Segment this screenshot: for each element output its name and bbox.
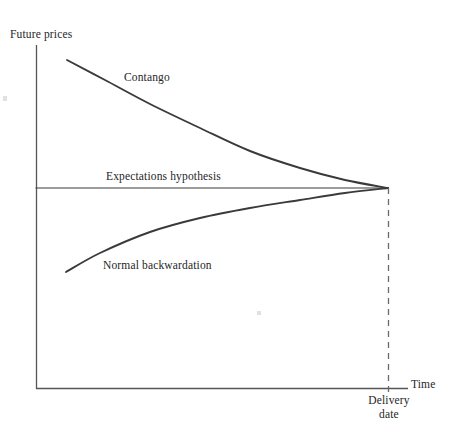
x-axis-label: Time (411, 378, 435, 392)
futures-price-convergence-figure: Future prices Contango Expectations hypo… (0, 0, 454, 435)
normal-backwardation-label: Normal backwardation (103, 259, 212, 273)
delivery-date-label: Delivery date (361, 394, 417, 421)
delivery-date-line-2: date (361, 408, 417, 422)
contango-label: Contango (124, 71, 170, 85)
scan-artifact (3, 96, 7, 101)
scan-artifact (257, 311, 261, 315)
contango-curve (67, 60, 388, 188)
figure-canvas (0, 0, 454, 435)
y-axis-label: Future prices (10, 28, 72, 42)
expectations-hypothesis-label: Expectations hypothesis (106, 170, 221, 184)
delivery-date-line-1: Delivery (361, 394, 417, 408)
